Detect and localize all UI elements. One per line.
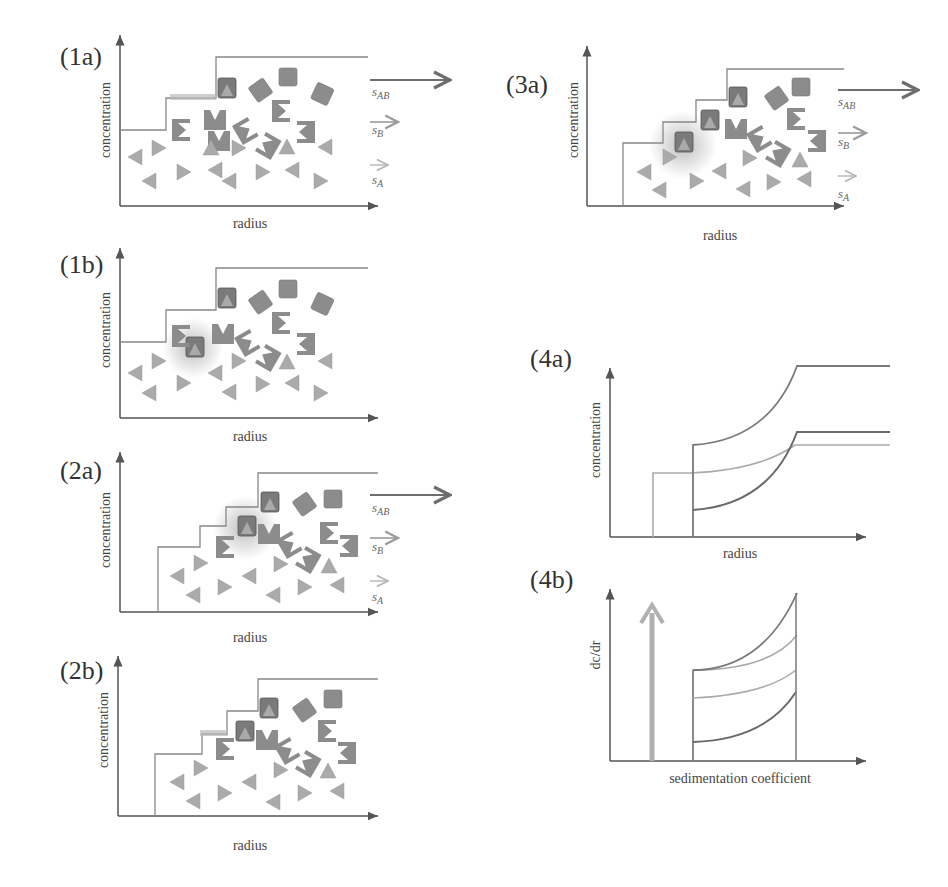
svg-text:concentration: concentration bbox=[588, 402, 603, 478]
svg-text:sA: sA bbox=[838, 186, 850, 203]
panel-label: (2b) bbox=[60, 656, 103, 686]
svg-text:concentration: concentration bbox=[96, 692, 111, 768]
panel-1b: (1b) concentration radius bbox=[0, 230, 470, 450]
schematic-3a: sAB sB sA concentration radius bbox=[500, 30, 940, 250]
svg-text:sB: sB bbox=[838, 134, 849, 151]
svg-text:sB: sB bbox=[372, 539, 383, 556]
svg-text:sAB: sAB bbox=[372, 84, 389, 101]
panel-2b: (2b) concentration radius bbox=[0, 650, 470, 887]
svg-text:dc/dr: dc/dr bbox=[588, 640, 603, 669]
panel-label: (4a) bbox=[530, 344, 572, 374]
panel-label: (4b) bbox=[530, 565, 573, 595]
svg-text:radius: radius bbox=[703, 228, 737, 243]
panel-3a: (3a) sAB sB sA concentration radius bbox=[500, 30, 940, 250]
panel-label: (1b) bbox=[60, 250, 103, 280]
svg-text:radius: radius bbox=[233, 838, 267, 853]
plot-4a: concentration radius bbox=[530, 340, 940, 580]
svg-text:concentration: concentration bbox=[98, 492, 113, 568]
svg-text:sA: sA bbox=[372, 172, 384, 189]
panel-label: (1a) bbox=[60, 42, 102, 72]
svg-text:sedimentation coefficient: sedimentation coefficient bbox=[669, 771, 811, 786]
svg-text:sAB: sAB bbox=[372, 500, 389, 517]
svg-text:sA: sA bbox=[372, 589, 384, 606]
svg-text:radius: radius bbox=[723, 546, 757, 561]
panel-1a: (1a) sAB sB sA concentrati bbox=[0, 0, 470, 235]
svg-text:radius: radius bbox=[233, 630, 267, 645]
panel-4b: (4b) dc/dr sedimentation coefficient bbox=[530, 565, 940, 825]
plot-4b: dc/dr sedimentation coefficient bbox=[530, 565, 940, 825]
panel-label: (2a) bbox=[60, 456, 102, 486]
schematic-1a: sAB sB sA concentration radius bbox=[0, 0, 470, 235]
svg-text:concentration: concentration bbox=[566, 82, 581, 158]
svg-text:sB: sB bbox=[372, 122, 383, 139]
panel-4a: (4a) concentration radius bbox=[530, 340, 940, 580]
svg-text:concentration: concentration bbox=[98, 82, 113, 158]
panel-2a: (2a) sAB sB sA concentration radius bbox=[0, 440, 470, 650]
svg-text:concentration: concentration bbox=[98, 292, 113, 368]
svg-text:sAB: sAB bbox=[838, 94, 855, 111]
svg-text:radius: radius bbox=[233, 216, 267, 231]
panel-label: (3a) bbox=[506, 70, 548, 100]
